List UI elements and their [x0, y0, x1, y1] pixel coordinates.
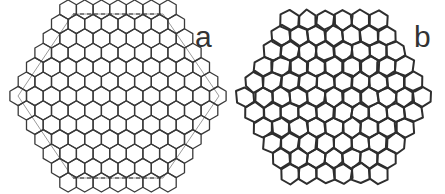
honeycomb-lattice-b — [222, 0, 445, 194]
panel-label-b: b — [414, 22, 431, 52]
panel-b-distorted-lattice — [222, 0, 445, 194]
panel-label-a: a — [195, 22, 212, 52]
